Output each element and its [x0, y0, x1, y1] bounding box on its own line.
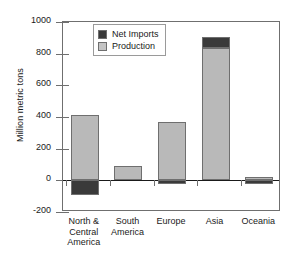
legend-label-production: Production — [112, 41, 155, 51]
y-axis-tick — [56, 180, 63, 181]
y-axis-tick-inner — [63, 22, 69, 23]
bar-segment-production — [71, 115, 99, 181]
y-axis-tick-inner — [63, 54, 69, 55]
y-axis-tick-inner — [63, 212, 69, 213]
y-axis-tick — [56, 22, 63, 23]
x-axis-category-label: Europe — [149, 216, 193, 227]
legend-label-net-imports: Net Imports — [112, 29, 159, 39]
y-axis-tick-label: -200 — [0, 205, 51, 215]
x-axis-tick — [110, 180, 111, 186]
x-axis-category-label: South America — [106, 216, 150, 237]
y-axis-tick — [56, 54, 63, 55]
legend-entry-net-imports: Net Imports — [98, 28, 159, 40]
bar-segment-net-imports — [202, 37, 230, 48]
y-axis-tick-label: 0 — [0, 173, 51, 183]
legend-swatch-production-icon — [98, 42, 107, 51]
y-axis-tick-inner — [63, 85, 69, 86]
y-axis-tick — [56, 85, 63, 86]
bar-chart-figure: Million metric tons Net Imports Producti… — [0, 0, 297, 255]
x-axis-category-label: Asia — [193, 216, 237, 227]
y-axis-tick-label: 200 — [0, 142, 51, 152]
y-axis-tick-inner — [63, 117, 69, 118]
bar-segment-production — [114, 166, 142, 180]
x-axis-tick — [66, 180, 67, 186]
y-axis-tick-label: 600 — [0, 78, 51, 88]
x-axis-tick — [197, 180, 198, 186]
y-axis-tick-label: 1000 — [0, 15, 51, 25]
y-axis-tick — [56, 212, 63, 213]
x-axis-tick — [154, 180, 155, 186]
y-axis-tick — [56, 149, 63, 150]
legend-entry-production: Production — [98, 40, 159, 52]
y-axis-tick-label: 400 — [0, 110, 51, 120]
legend-swatch-net-imports-icon — [98, 30, 107, 39]
bar-segment-production — [158, 122, 186, 181]
x-axis-tick — [241, 180, 242, 186]
bar-segment-production — [202, 48, 230, 180]
y-axis-tick — [56, 117, 63, 118]
y-axis-tick-inner — [63, 149, 69, 150]
y-axis-tick-label: 800 — [0, 47, 51, 57]
bar-segment-net-imports — [71, 180, 99, 194]
bar-segment-net-imports — [158, 180, 186, 184]
chart-legend: Net Imports Production — [93, 24, 166, 56]
bar-segment-net-imports — [245, 180, 273, 184]
x-axis-category-label: North & Central America — [62, 216, 106, 248]
x-axis-category-label: Oceania — [236, 216, 280, 227]
